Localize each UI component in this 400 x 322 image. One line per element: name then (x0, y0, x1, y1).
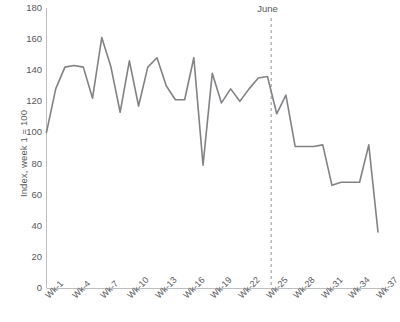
x-tick-label: Wk-19 (209, 276, 234, 301)
x-tick-label: Wk-37 (375, 276, 400, 301)
x-tick-label: Wk-31 (320, 276, 345, 301)
x-tick-label: Wk-22 (237, 276, 262, 301)
x-tick-label: Wk-1 (44, 279, 65, 300)
x-tick-label: Wk-25 (265, 276, 290, 301)
annotation-label-june: June (257, 4, 278, 14)
x-tick-label: Wk-13 (154, 276, 179, 301)
y-axis-title: Index, week 1 = 100 (18, 84, 29, 224)
x-tick-label: Wk-16 (182, 276, 207, 301)
x-tick-label: Wk-7 (99, 279, 120, 300)
x-tick-label: Wk-28 (292, 276, 317, 301)
x-tick-label: Wk-10 (126, 276, 151, 301)
x-tick-label: Wk-34 (347, 276, 372, 301)
x-tick-label: Wk-4 (71, 279, 92, 300)
